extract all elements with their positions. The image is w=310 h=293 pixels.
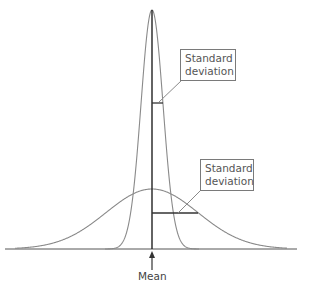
lower-leader-line bbox=[178, 190, 201, 213]
lower-sd-label-line2: deviation bbox=[205, 175, 249, 188]
wide-distribution-curve bbox=[15, 189, 287, 248]
upper-sd-label-line2: deviation bbox=[185, 65, 231, 78]
upper-sd-label-box: Standard deviation bbox=[180, 49, 236, 81]
mean-label: Mean bbox=[138, 270, 167, 282]
lower-sd-label-box: Standard deviation bbox=[200, 159, 254, 191]
distribution-plot bbox=[0, 0, 310, 293]
upper-sd-label-line1: Standard bbox=[185, 52, 231, 65]
mean-arrow-icon bbox=[149, 251, 155, 258]
lower-sd-label-line1: Standard bbox=[205, 162, 249, 175]
diagram-canvas: Standard deviation Standard deviation Me… bbox=[0, 0, 310, 293]
